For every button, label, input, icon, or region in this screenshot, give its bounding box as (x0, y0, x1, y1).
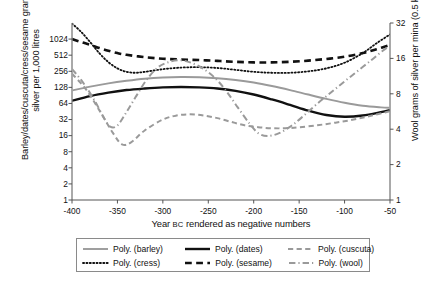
legend-swatch-dates (184, 243, 211, 255)
legend-swatch-wool (288, 257, 315, 269)
y-tick-label-right: 32 (396, 18, 428, 28)
y-tick-label-left: 64 (28, 98, 68, 108)
x-tick-label: -200 (232, 206, 276, 216)
legend-swatch-cuscuta (287, 243, 314, 255)
legend-item-cress[interactable]: Poly. (cress) (77, 256, 182, 270)
series-group (72, 24, 390, 145)
axes-group (69, 23, 394, 204)
legend-item-dates[interactable]: Poly. (dates) (182, 242, 285, 256)
legend-label-sesame: Poly. (sesame) (215, 258, 272, 268)
legend-label-wool: Poly. (wool) (319, 258, 363, 268)
y-tick-label-right: 4 (396, 124, 428, 134)
legend-item-cuscuta[interactable]: Poly. (cuscuta) (285, 242, 369, 256)
y-tick-label-left: 8 (28, 147, 68, 157)
legend-label-dates: Poly. (dates) (215, 244, 263, 254)
legend-item-wool[interactable]: Poly. (wool) (286, 256, 369, 270)
series-line-barley (72, 77, 390, 108)
y-tick-label-left: 32 (28, 114, 68, 124)
x-axis-title: Year BC rendered as negative numbers (72, 219, 390, 231)
legend-label-barley: Poly. (barley) (113, 244, 163, 254)
x-axis-title-part1: Year (152, 218, 173, 229)
y-tick-label-right: 2 (396, 159, 428, 169)
x-tick-label: -300 (141, 206, 185, 216)
y-tick-label-left: 256 (28, 66, 68, 76)
x-tick-label: -250 (186, 206, 230, 216)
y-tick-label-left: 2 (28, 179, 68, 189)
legend-item-barley[interactable]: Poly. (barley) (77, 242, 182, 256)
y-tick-label-left: 1024 (28, 34, 68, 44)
x-axis-title-smallcaps: BC (173, 220, 184, 229)
y-tick-label-left: 4 (28, 163, 68, 173)
legend-label-cuscuta: Poly. (cuscuta) (318, 244, 374, 254)
x-tick-label: -150 (277, 206, 321, 216)
legend-swatch-barley (82, 243, 109, 255)
legend-row: Poly. (barley)Poly. (dates)Poly. (cuscut… (77, 242, 369, 256)
legend-row: Poly. (cress)Poly. (sesame)Poly. (wool) (77, 256, 369, 270)
y-tick-label-left: 128 (28, 82, 68, 92)
legend-item-sesame[interactable]: Poly. (sesame) (182, 256, 285, 270)
chart-container: Barley/dates/cuscuta/cress/sesame grams … (0, 0, 446, 281)
x-axis-title-part2: rendered as negative numbers (184, 218, 311, 229)
series-line-sesame (72, 39, 390, 62)
x-tick-label: -50 (368, 206, 412, 216)
x-tick-label: -350 (95, 206, 139, 216)
series-line-cress (72, 24, 390, 73)
y-tick-label-right: 8 (396, 89, 428, 99)
y-tick-label-left: 512 (28, 50, 68, 60)
x-tick-label: -100 (323, 206, 367, 216)
y-tick-label-left: 16 (28, 130, 68, 140)
legend-swatch-sesame (184, 257, 211, 269)
legend-label-cress: Poly. (cress) (113, 258, 160, 268)
chart-legend: Poly. (barley)Poly. (dates)Poly. (cuscut… (76, 238, 370, 272)
y-tick-label-right: 16 (396, 53, 428, 63)
y-tick-label-right: 1 (396, 195, 428, 205)
x-tick-label: -400 (50, 206, 94, 216)
y-tick-label-left: 1 (28, 195, 68, 205)
legend-swatch-cress (82, 257, 109, 269)
